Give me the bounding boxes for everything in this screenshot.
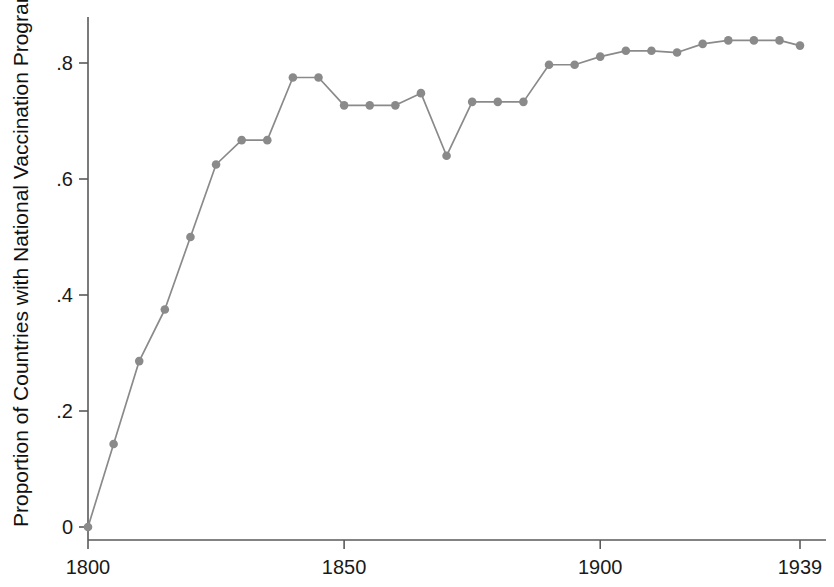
data-point-marker <box>365 101 374 110</box>
data-point-marker <box>570 60 579 69</box>
x-axis-ticks: 1800185019001939 <box>66 540 823 578</box>
chart-figure: Proportion of Countries with National Va… <box>0 0 834 587</box>
data-point-marker <box>545 60 554 69</box>
data-point-marker <box>493 98 502 107</box>
data-point-marker <box>417 89 426 98</box>
x-tick-label: 1850 <box>322 556 367 578</box>
data-point-marker <box>109 440 118 449</box>
data-point-marker <box>391 101 400 110</box>
data-point-marker <box>519 98 528 107</box>
data-point-marker <box>622 47 631 56</box>
x-tick-label: 1900 <box>578 556 623 578</box>
data-point-marker <box>161 305 170 314</box>
data-point-marker <box>340 101 349 110</box>
data-point-marker <box>673 48 682 57</box>
data-point-marker <box>796 41 805 50</box>
y-tick-label: 0 <box>62 516 73 538</box>
y-tick-label: .2 <box>56 400 73 422</box>
data-point-marker <box>442 152 451 161</box>
data-point-marker <box>237 136 246 145</box>
data-point-marker <box>212 160 221 169</box>
data-point-marker <box>314 73 323 82</box>
data-point-marker <box>775 36 784 45</box>
data-point-marker <box>750 36 759 45</box>
y-tick-label: .6 <box>56 168 73 190</box>
line-chart-plot: Proportion of Countries with National Va… <box>0 0 834 587</box>
x-tick-label: 1800 <box>66 556 111 578</box>
data-point-marker <box>135 357 144 366</box>
data-point-marker <box>84 523 93 532</box>
data-point-marker <box>698 40 707 49</box>
y-tick-label: .4 <box>56 284 73 306</box>
x-tick-label: 1939 <box>778 556 823 578</box>
data-point-marker <box>186 233 195 242</box>
data-point-marker <box>647 47 656 56</box>
data-series-group <box>84 36 805 531</box>
series-line <box>88 40 800 527</box>
y-tick-label: .8 <box>56 52 73 74</box>
data-point-marker <box>596 52 605 61</box>
data-point-marker <box>289 73 298 82</box>
y-axis-ticks: 0.2.4.6.8 <box>56 52 88 538</box>
data-point-marker <box>468 98 477 107</box>
y-axis-title: Proportion of Countries with National Va… <box>9 0 32 527</box>
data-point-marker <box>724 36 733 45</box>
data-point-marker <box>263 136 272 145</box>
